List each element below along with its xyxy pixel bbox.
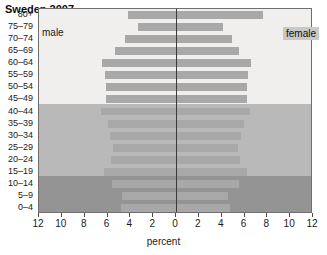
bar-row xyxy=(39,83,311,91)
x-tick-label: 10 xyxy=(55,218,66,229)
male-bar xyxy=(106,83,176,91)
male-bar xyxy=(111,156,176,164)
bar-row xyxy=(39,192,311,200)
bar-row xyxy=(39,59,311,67)
age-axis-labels: 80+75–7970–7465–6960–6455–5950–5445–4940… xyxy=(0,8,36,213)
x-tick-label: 12 xyxy=(306,218,317,229)
age-group-label: 30–34 xyxy=(8,130,33,140)
male-bar xyxy=(138,23,176,31)
bar-row xyxy=(39,108,311,116)
male-bar xyxy=(104,168,176,176)
x-tick-mark xyxy=(152,213,153,217)
plot-area xyxy=(38,8,312,213)
age-group-label: 0–4 xyxy=(18,202,33,212)
female-bar xyxy=(177,156,240,164)
x-tick-mark xyxy=(221,213,222,217)
male-bar xyxy=(122,192,176,200)
female-bar xyxy=(177,23,223,31)
x-tick-label: 8 xyxy=(264,218,270,229)
bar-row xyxy=(39,132,311,140)
age-group-label: 35–39 xyxy=(8,118,33,128)
bar-row xyxy=(39,168,311,176)
x-axis-title: percent xyxy=(0,236,327,247)
female-bar xyxy=(177,47,239,55)
bar-row xyxy=(39,144,311,152)
bar-row xyxy=(39,71,311,79)
x-tick-mark xyxy=(38,213,39,217)
male-bar xyxy=(121,204,176,212)
age-group-label: 40–44 xyxy=(8,106,33,116)
female-bar xyxy=(177,180,239,188)
age-group-label: 65–69 xyxy=(8,45,33,55)
male-bar xyxy=(112,180,176,188)
x-tick-label: 4 xyxy=(127,218,133,229)
female-bar xyxy=(177,132,241,140)
female-bar xyxy=(177,204,230,212)
female-bar xyxy=(177,108,250,116)
bar-row xyxy=(39,35,311,43)
x-tick-label: 12 xyxy=(32,218,43,229)
male-bar xyxy=(110,132,176,140)
x-tick-mark xyxy=(266,213,267,217)
male-bar xyxy=(101,108,176,116)
female-bar xyxy=(177,59,251,67)
bar-row xyxy=(39,95,311,103)
bar-row xyxy=(39,204,311,212)
x-tick-label: 0 xyxy=(172,218,178,229)
bar-row xyxy=(39,11,311,19)
x-tick-label: 4 xyxy=(218,218,224,229)
age-group-label: 50–54 xyxy=(8,81,33,91)
age-group-label: 15–19 xyxy=(8,166,33,176)
male-bar xyxy=(125,35,176,43)
male-legend-label: male xyxy=(42,27,64,38)
female-bar xyxy=(177,192,228,200)
female-bar xyxy=(177,144,238,152)
x-tick-mark xyxy=(129,213,130,217)
x-tick-mark xyxy=(312,213,313,217)
age-group-label: 60–64 xyxy=(8,57,33,67)
x-tick-label: 10 xyxy=(284,218,295,229)
zero-axis-line xyxy=(176,9,177,212)
male-bar xyxy=(128,11,176,19)
age-group-label: 80+ xyxy=(18,9,33,19)
bar-row xyxy=(39,120,311,128)
x-tick-label: 2 xyxy=(149,218,155,229)
male-bar xyxy=(106,95,176,103)
female-bar xyxy=(177,71,248,79)
age-group-label: 55–59 xyxy=(8,69,33,79)
x-tick-label: 2 xyxy=(195,218,201,229)
female-legend-label: female xyxy=(283,27,319,40)
age-group-label: 45–49 xyxy=(8,93,33,103)
population-pyramid-chart: Sweden 2007 80+75–7970–7465–6960–6455–59… xyxy=(0,0,327,255)
x-tick-label: 6 xyxy=(241,218,247,229)
x-tick-mark xyxy=(244,213,245,217)
female-bar xyxy=(177,35,232,43)
x-tick-label: 6 xyxy=(104,218,110,229)
bar-row xyxy=(39,156,311,164)
bar-row xyxy=(39,180,311,188)
female-bar xyxy=(177,95,247,103)
x-tick-mark xyxy=(289,213,290,217)
bar-row xyxy=(39,23,311,31)
age-group-label: 70–74 xyxy=(8,33,33,43)
age-group-label: 5–9 xyxy=(18,190,33,200)
age-group-label: 20–24 xyxy=(8,154,33,164)
male-bar xyxy=(102,59,176,67)
age-group-label: 25–29 xyxy=(8,142,33,152)
male-bar xyxy=(115,47,176,55)
male-bar xyxy=(108,120,177,128)
x-tick-mark xyxy=(107,213,108,217)
x-axis-ticks: 12108642024681012 xyxy=(38,213,312,219)
bar-row xyxy=(39,47,311,55)
age-group-label: 10–14 xyxy=(8,178,33,188)
x-tick-mark xyxy=(198,213,199,217)
female-bar xyxy=(177,83,247,91)
x-tick-label: 8 xyxy=(81,218,87,229)
female-bar xyxy=(177,120,244,128)
age-group-label: 75–79 xyxy=(8,21,33,31)
x-tick-mark xyxy=(61,213,62,217)
female-bar xyxy=(177,11,263,19)
female-bar xyxy=(177,168,247,176)
x-tick-mark xyxy=(175,213,176,217)
male-bar xyxy=(113,144,176,152)
